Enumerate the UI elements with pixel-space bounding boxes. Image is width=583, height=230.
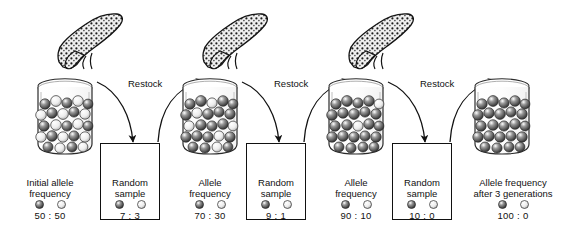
allele-ratio: 70 : 30 (170, 210, 250, 221)
jar-generation-2 (327, 14, 414, 154)
allele-marble-pair (100, 199, 160, 210)
caption-line-2: frequency (10, 188, 90, 199)
stage-caption-generation-2: Allele frequency 90 : 10 (316, 177, 396, 221)
stage-caption-generation-1: Allele frequency 70 : 30 (170, 177, 250, 221)
allele-marble-pair (246, 199, 306, 210)
caption-line-2: after 3 generations (452, 188, 574, 199)
curved-arrow-icon (388, 82, 425, 142)
light-allele-marble-icon (363, 200, 372, 209)
caption-line-1: Random (246, 177, 306, 188)
allele-ratio: 90 : 10 (316, 210, 396, 221)
genetic-drift-diagram: Initial allele frequency 50 : 50 Random … (0, 0, 583, 230)
allele-marble-pair (452, 199, 574, 210)
caption-line-1: Allele frequency (452, 177, 574, 188)
caption-line-2: sample (100, 188, 160, 199)
caption-line-1: Allele (170, 177, 250, 188)
caption-line-1: Allele (316, 177, 396, 188)
caption-line-1: Random (392, 177, 452, 188)
restock-label-3: Restock (420, 78, 454, 89)
restock-label-1: Restock (128, 78, 162, 89)
sample-ratio: 7 : 3 (100, 210, 160, 221)
allele-ratio: 50 : 50 (10, 210, 90, 221)
light-allele-marble-icon (283, 200, 292, 209)
stage-caption-generation-3: Allele frequency after 3 generations 100… (452, 177, 574, 221)
curved-arrow-icon (97, 82, 133, 142)
dark-allele-marble-icon (261, 200, 270, 209)
light-allele-marble-icon (57, 200, 66, 209)
restock-label-2: Restock (274, 78, 308, 89)
dark-allele-marble-icon (195, 200, 204, 209)
sample-caption-1: Random sample 7 : 3 (100, 177, 160, 221)
sample-caption-2: Random sample 9 : 1 (246, 177, 306, 221)
caption-line-2: frequency (316, 188, 396, 199)
caption-line-2: frequency (170, 188, 250, 199)
hand-icon (349, 14, 413, 69)
caption-line-2: sample (392, 188, 452, 199)
sample-caption-3: Random sample 10 : 0 (392, 177, 452, 221)
light-allele-marble-icon (137, 200, 146, 209)
light-allele-marble-icon (217, 200, 226, 209)
sample-ratio: 10 : 0 (392, 210, 452, 221)
caption-line-1: Random (100, 177, 160, 188)
dark-allele-marble-icon (407, 200, 416, 209)
allele-marble-pair (316, 199, 396, 210)
caption-line-2: sample (246, 188, 306, 199)
allele-marble-pair (10, 199, 90, 210)
dark-allele-marble-icon (115, 200, 124, 209)
jar-generation-3 (473, 79, 530, 154)
allele-marble-pair (392, 199, 452, 210)
stage-caption-generation-0: Initial allele frequency 50 : 50 (10, 177, 90, 221)
hand-icon (203, 14, 267, 69)
sample-ratio: 9 : 1 (246, 210, 306, 221)
dark-allele-marble-icon (498, 200, 507, 209)
jar-generation-1 (181, 14, 268, 154)
allele-marble-pair (170, 199, 250, 210)
dark-allele-marble-icon (341, 200, 350, 209)
curved-arrow-icon (242, 82, 279, 142)
jar-generation-0 (36, 14, 123, 154)
caption-line-1: Initial allele (10, 177, 90, 188)
hand-icon (58, 14, 122, 69)
dark-allele-marble-icon (35, 200, 44, 209)
allele-ratio: 100 : 0 (452, 210, 574, 221)
light-allele-marble-icon (520, 200, 529, 209)
light-allele-marble-icon (429, 200, 438, 209)
